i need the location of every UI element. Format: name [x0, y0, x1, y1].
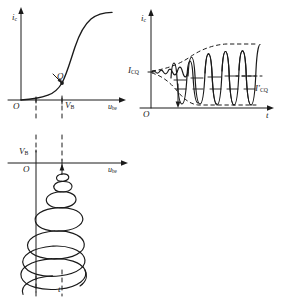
panel2-x-axis-label: t [266, 111, 269, 120]
transfer-curve [21, 12, 112, 100]
panel-collector-current [140, 9, 274, 111]
panel3-t-axis-label: t [58, 285, 61, 294]
axis-x-arrow-3 [121, 160, 128, 165]
panel2-origin-label: O [143, 110, 150, 119]
waveform-growing-oscillations [171, 45, 260, 106]
panel-input-voltage [8, 135, 128, 296]
panel2-icq-shifted-label: I′CQ [255, 84, 268, 94]
axis-y-arrow [18, 7, 23, 14]
panel1-bias-label: VB [65, 101, 74, 111]
axis-y-arrow-2 [148, 9, 153, 16]
panel1-origin-label: O [13, 102, 20, 111]
panel3-bias-label: VB [19, 147, 28, 157]
figure-vector-graphics [0, 0, 288, 303]
clip-arrow-head [176, 102, 181, 109]
panel1-x-axis-label: ube [108, 103, 117, 111]
start-arrow-head [60, 164, 65, 171]
panel1-q-label: Q [57, 72, 64, 81]
panel1-y-axis-label: ic [12, 13, 17, 23]
axis-x-arrow [119, 97, 126, 102]
waveform-initial-small [152, 67, 188, 77]
panel2-y-axis-label: ic [141, 14, 146, 24]
figure-canvas: ic O Q VB ube ic ICQ I′CQ O t VB O ube t [0, 0, 288, 303]
panel3-x-axis-label: ube [108, 166, 117, 174]
panel3-origin-label: O [23, 165, 30, 174]
spiral-waveform [21, 174, 87, 294]
panel2-icq-label: ICQ [128, 66, 139, 76]
